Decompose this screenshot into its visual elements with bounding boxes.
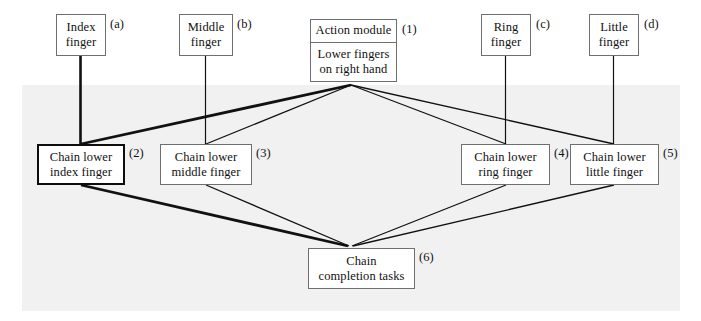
node-chain-lower-index-finger-line-2: index finger	[50, 165, 112, 180]
node-index-finger-tag: (a)	[110, 17, 124, 31]
node-chain-lower-ring-finger-line-1: Chain lower	[474, 150, 537, 165]
node-action-module-tag: (1)	[402, 22, 417, 36]
node-middle-finger[interactable]: Middle finger	[179, 14, 233, 56]
edge-action-to-chain-index	[81, 85, 351, 144]
node-chain-lower-ring-finger[interactable]: Chain lower ring finger	[461, 144, 550, 185]
node-little-finger[interactable]: Little finger	[589, 14, 639, 56]
node-action-module-body: Lower fingers on right hand	[311, 43, 396, 80]
node-chain-lower-middle-finger-line-2: middle finger	[172, 165, 241, 180]
node-ring-finger-line-1: Ring	[494, 20, 519, 35]
node-chain-lower-little-finger-tag: (5)	[663, 146, 678, 160]
node-ring-finger-tag: (c)	[536, 17, 550, 31]
node-action-module-body-line-1: Lower fingers	[315, 47, 392, 62]
node-ring-finger-line-2: finger	[491, 35, 521, 50]
node-little-finger-line-2: finger	[599, 35, 629, 50]
node-chain-completion-tasks-tag: (6)	[419, 250, 434, 264]
node-ring-finger[interactable]: Ring finger	[481, 14, 531, 56]
node-little-finger-tag: (d)	[644, 17, 659, 31]
node-index-finger[interactable]: Index finger	[56, 14, 106, 56]
node-middle-finger-line-1: Middle	[188, 20, 225, 35]
node-chain-lower-ring-finger-line-2: ring finger	[478, 165, 532, 180]
node-chain-lower-index-finger-tag: (2)	[129, 146, 144, 160]
diagram-canvas: Index finger (a) Middle finger (b) Actio…	[0, 0, 701, 321]
node-chain-lower-middle-finger-tag: (3)	[256, 146, 271, 160]
node-chain-lower-little-finger-line-2: little finger	[586, 165, 643, 180]
node-little-finger-line-1: Little	[600, 20, 628, 35]
node-chain-lower-index-finger[interactable]: Chain lower index finger	[37, 144, 125, 185]
node-chain-completion-tasks[interactable]: Chain completion tasks	[308, 248, 415, 289]
node-middle-finger-line-2: finger	[191, 35, 221, 50]
node-action-module[interactable]: Action module Lower fingers on right han…	[310, 19, 397, 82]
node-chain-lower-little-finger-line-1: Chain lower	[583, 150, 646, 165]
node-chain-lower-ring-finger-tag: (4)	[554, 146, 569, 160]
node-index-finger-line-1: Index	[67, 20, 96, 35]
node-action-module-body-line-2: on right hand	[315, 62, 392, 77]
node-chain-completion-tasks-line-1: Chain	[346, 254, 376, 269]
node-action-module-header: Action module	[311, 20, 396, 43]
edge-action-to-chain-middle	[206, 85, 351, 144]
node-chain-lower-middle-finger-line-1: Chain lower	[175, 150, 238, 165]
node-chain-lower-index-finger-line-1: Chain lower	[50, 150, 113, 165]
edge-chain-index-to-completion	[81, 185, 348, 246]
node-chain-completion-tasks-line-2: completion tasks	[319, 269, 405, 284]
node-index-finger-line-2: finger	[66, 35, 96, 50]
node-chain-lower-middle-finger[interactable]: Chain lower middle finger	[160, 144, 252, 185]
node-middle-finger-tag: (b)	[237, 17, 252, 31]
edge-chain-middle-to-completion	[206, 185, 349, 246]
node-chain-lower-little-finger[interactable]: Chain lower little finger	[570, 144, 659, 185]
